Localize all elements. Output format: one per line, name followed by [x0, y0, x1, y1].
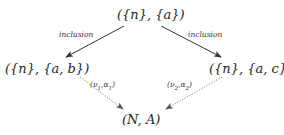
alpha2-sub: 2 [185, 85, 189, 91]
node-bottom: (N, A) [122, 113, 160, 126]
alpha1-sub: 1 [108, 85, 112, 91]
node-top: ({n}, {a}) [117, 8, 185, 21]
nu1-sub: 1 [98, 85, 102, 91]
label-inclusion-left: inclusion [59, 31, 93, 39]
nu2-sub: 2 [175, 85, 179, 91]
label-nu2-alpha2: (ν2,α2) [167, 81, 192, 91]
commutative-diagram: ({n}, {a}) ({n}, {a, b}) ({n}, {a, c}) (… [0, 0, 284, 135]
label-nu1-alpha1: (ν1,α1) [90, 81, 115, 91]
node-right: ({n}, {a, c}) [209, 62, 284, 75]
label-inclusion-right: inclusion [188, 31, 222, 39]
node-left: ({n}, {a, b}) [5, 62, 89, 75]
